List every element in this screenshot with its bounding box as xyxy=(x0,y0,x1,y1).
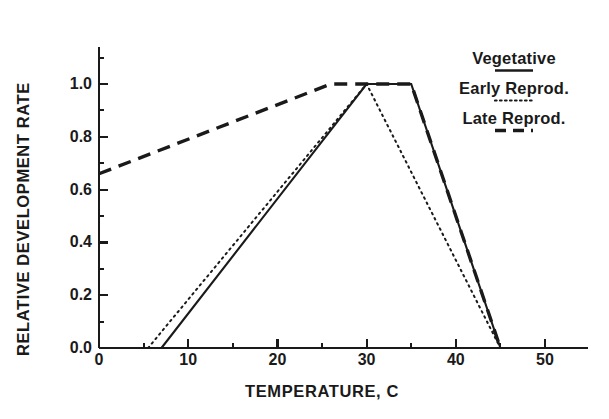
legend: VegetativeEarly Reprod.Late Reprod. xyxy=(428,48,600,138)
legend-entry: Vegetative xyxy=(428,48,600,78)
legend-entry: Early Reprod. xyxy=(428,78,600,108)
legend-line-sample-solid xyxy=(494,68,534,72)
legend-entry: Late Reprod. xyxy=(428,108,600,138)
legend-label: Vegetative xyxy=(428,48,600,68)
legend-label: Late Reprod. xyxy=(428,108,600,128)
legend-label: Early Reprod. xyxy=(428,78,600,98)
legend-line-sample-dotted xyxy=(494,98,534,102)
chart-figure: RELATIVE DEVELOPMENT RATE TEMPERATURE, C… xyxy=(0,0,609,419)
legend-line-sample-dashed xyxy=(494,128,534,132)
